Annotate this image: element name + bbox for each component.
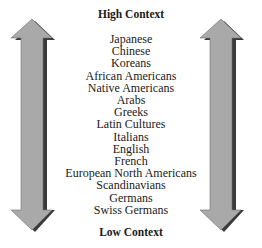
list-item: Koreans — [0, 57, 262, 69]
list-item: Scandinavians — [0, 179, 262, 191]
culture-list: Japanese Chinese Koreans African America… — [0, 33, 262, 216]
list-item: Latin Cultures — [0, 118, 262, 130]
list-item: Swiss Germans — [0, 204, 262, 216]
list-item: Germans — [0, 192, 262, 204]
list-item: Italians — [0, 131, 262, 143]
low-context-label: Low Context — [0, 226, 262, 238]
list-item: African Americans — [0, 70, 262, 82]
high-context-label: High Context — [0, 8, 262, 20]
